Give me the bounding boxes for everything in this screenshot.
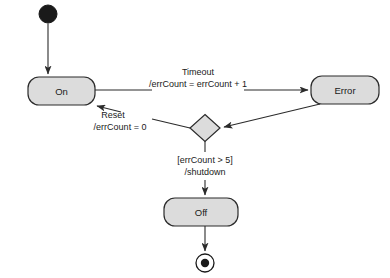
transition-label-choice-to-on-trigger: Reset (101, 110, 125, 120)
transition-line-right-segment (152, 119, 190, 128)
transition-error-to-choice[interactable] (224, 104, 320, 127)
state-diagram-canvas: Timeout /errCount = errCount + 1 Reset /… (0, 0, 390, 278)
final-state-inner-circle-icon (201, 259, 209, 267)
state-diagram-svg: Timeout /errCount = errCount + 1 Reset /… (0, 0, 390, 278)
state-node-off[interactable]: Off (164, 198, 238, 226)
state-node-error[interactable]: Error (311, 76, 379, 104)
initial-state-circle-icon (39, 5, 57, 23)
state-label-error: Error (334, 85, 355, 96)
transition-on-to-error[interactable]: Timeout /errCount = errCount + 1 (95, 67, 308, 90)
transition-choice-to-off[interactable]: [errCount > 5] /shutdown (177, 141, 232, 195)
final-state-node[interactable] (196, 254, 214, 272)
transition-label-choice-to-on-effect: /errCount = 0 (94, 122, 147, 132)
initial-state-node[interactable] (39, 5, 57, 23)
state-label-off: Off (195, 207, 208, 218)
transition-label-choice-to-off-guard: [errCount > 5] (177, 155, 232, 165)
diamond-icon (190, 115, 220, 142)
transition-label-on-to-error-effect: /errCount = errCount + 1 (149, 79, 247, 89)
transition-label-on-to-error-trigger: Timeout (182, 67, 215, 77)
choice-pseudostate-node[interactable] (190, 115, 220, 142)
transition-line (224, 104, 320, 127)
state-label-on: On (55, 86, 68, 97)
transition-choice-to-on[interactable]: Reset /errCount = 0 (94, 106, 190, 132)
state-node-on[interactable]: On (28, 77, 95, 105)
transition-label-choice-to-off-effect: /shutdown (184, 167, 225, 177)
